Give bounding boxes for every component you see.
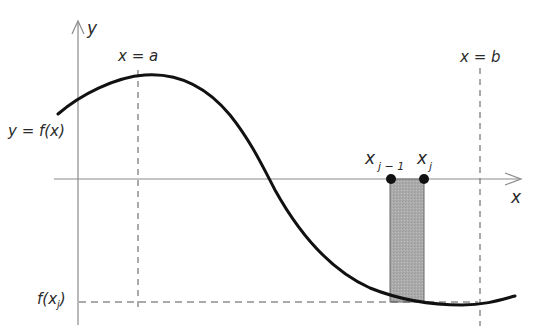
rectangle-j [390,179,424,302]
riemann-diagram: y x x = a x = b y = f(x) x j − 1 x j f(x… [0,0,536,332]
x-j-minus-1-subscript: j − 1 [376,160,404,173]
x-j-subscript: j [427,160,433,173]
f-xj-prefix: f(x [37,290,57,308]
f-xj-suffix: ) [59,290,66,308]
x-axis-label: x [510,187,522,207]
point-x-j [419,174,429,184]
x-equals-a-label: x = a [117,47,158,65]
f-xj-label: f(xj) [37,290,66,310]
x-j-label: x [416,148,428,168]
curve-f [58,75,515,305]
point-x-j-minus-1 [386,174,396,184]
curve-label: y = f(x) [7,122,65,140]
x-equals-b-label: x = b [459,48,501,66]
x-j-minus-1-label: x [364,148,376,168]
y-axis-label: y [86,18,98,38]
